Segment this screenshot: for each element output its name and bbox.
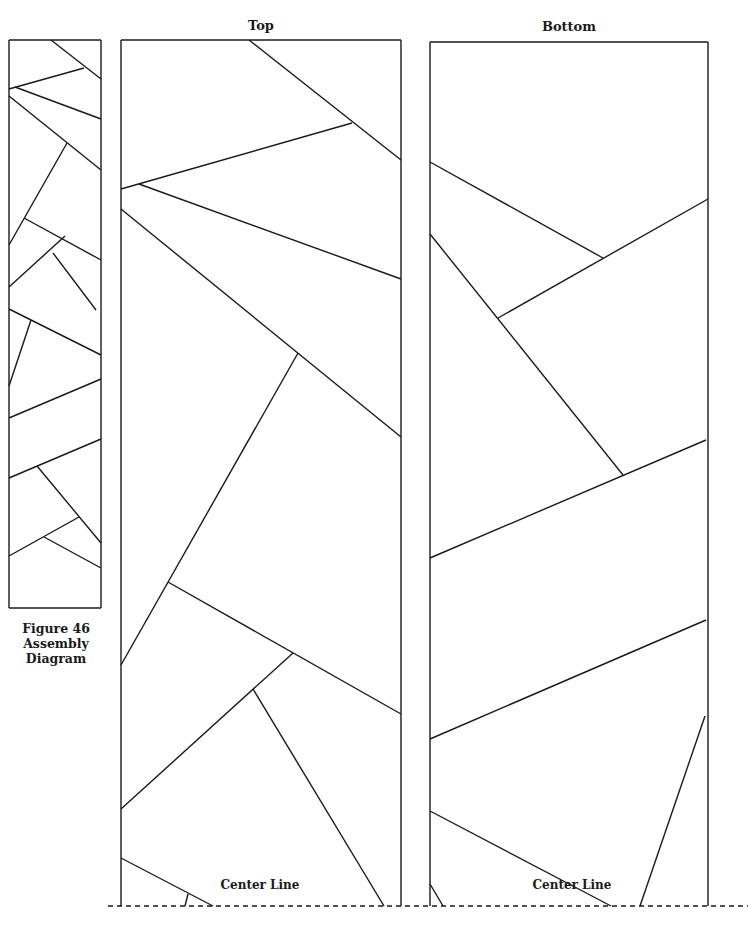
- figure-caption-line: Diagram: [0, 651, 112, 666]
- pattern-line: [121, 653, 293, 809]
- pattern-line: [15, 87, 101, 119]
- pattern-line: [9, 379, 101, 418]
- pattern-line: [185, 894, 188, 906]
- pattern-line: [37, 466, 101, 543]
- pattern-line: [168, 582, 401, 714]
- pattern-line: [9, 96, 101, 170]
- pattern-line: [51, 40, 101, 79]
- center-line-label-top: Center Line: [200, 878, 320, 892]
- pattern-line: [640, 716, 705, 906]
- bottom-pattern-panel: [430, 42, 708, 906]
- pattern-line: [9, 309, 101, 355]
- pattern-line: [9, 143, 67, 245]
- pattern-line: [249, 40, 401, 160]
- figure-caption-line: Figure 46: [0, 621, 112, 636]
- center-line-label-bottom: Center Line: [512, 878, 632, 892]
- pattern-line: [121, 209, 401, 437]
- pattern-line: [9, 236, 65, 287]
- panel-title-bottom: Bottom: [430, 19, 708, 34]
- figure-caption: Figure 46 Assembly Diagram: [0, 621, 112, 666]
- pattern-line: [253, 689, 384, 906]
- pattern-line: [9, 439, 101, 478]
- pattern-line: [121, 123, 352, 189]
- figure-caption-line: Assembly: [0, 636, 112, 651]
- pattern-line: [430, 440, 706, 558]
- pattern-line: [430, 234, 623, 475]
- pattern-line: [430, 620, 706, 739]
- assembly-diagram-canvas: [0, 0, 748, 933]
- pattern-line: [430, 162, 603, 258]
- assembly-diagram: [9, 40, 101, 608]
- pattern-line: [53, 253, 96, 310]
- pattern-line: [9, 320, 31, 386]
- pattern-line: [9, 68, 84, 89]
- pattern-line: [139, 184, 401, 279]
- pattern-line: [121, 353, 298, 665]
- pattern-line: [44, 537, 101, 568]
- top-pattern-panel: [121, 40, 401, 906]
- pattern-line: [430, 884, 443, 906]
- panel-title-top: Top: [121, 18, 401, 33]
